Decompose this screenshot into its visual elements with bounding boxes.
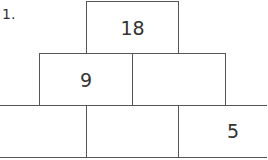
brick-bottom-middle: [86, 105, 179, 158]
brick-bottom-right: 5: [178, 105, 268, 158]
brick-middle-right: [132, 53, 226, 106]
brick-top: 18: [86, 1, 179, 54]
problem-number: 1.: [2, 6, 15, 22]
brick-middle-left: 9: [39, 53, 133, 106]
brick-bottom-left: [0, 105, 88, 158]
